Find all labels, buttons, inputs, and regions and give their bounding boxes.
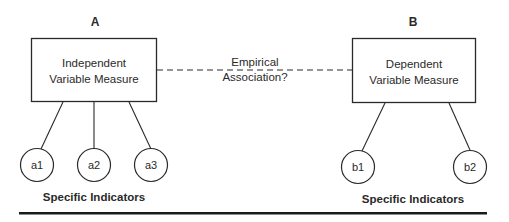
connector-b2 (449, 103, 470, 150)
specific-indicators-right: Specific Indicators (362, 193, 464, 205)
connector-b1 (362, 103, 385, 151)
indicator-a3-label: a3 (145, 159, 157, 171)
indicator-b1-label: b1 (352, 161, 364, 173)
label-b: B (409, 15, 418, 29)
indicator-a1-label: a1 (31, 159, 43, 171)
link-label-line-1: Empirical (231, 56, 278, 68)
dependent-box-line-1: Dependent (386, 58, 443, 70)
bottom-rule (19, 212, 487, 215)
independent-box-line-1: Independent (62, 57, 127, 69)
connector-a3 (129, 102, 151, 149)
independent-variable-box (32, 39, 157, 102)
specific-indicators-left: Specific Indicators (43, 191, 145, 203)
dependent-box-line-2: Variable Measure (369, 74, 458, 86)
measurement-diagram: A Independent Variable Measure a1 a2 a3 … (0, 0, 509, 222)
indicator-b2-label: b2 (464, 161, 476, 173)
dependent-variable-box (353, 39, 476, 103)
indicator-a2-label: a2 (88, 159, 100, 171)
label-a: A (91, 15, 100, 29)
connector-a1 (41, 102, 63, 149)
link-label-line-2: Association? (222, 71, 287, 83)
independent-box-line-2: Variable Measure (49, 73, 138, 85)
